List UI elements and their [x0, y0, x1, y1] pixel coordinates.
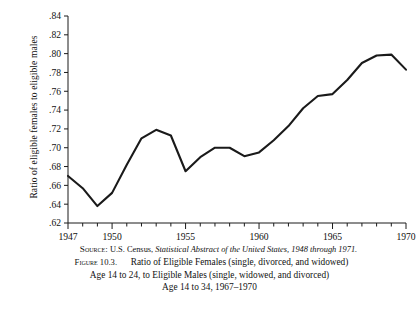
data-series-line	[68, 55, 406, 206]
figure-container: Ratio of eligible females to eligible ma…	[0, 0, 419, 313]
caption-text-2: Age 14 to 24, to Eligible Males (single,…	[90, 270, 329, 280]
x-tick-label: 1947	[58, 231, 77, 242]
source-note: Source: U.S. Census, Statistical Abstrac…	[0, 243, 419, 256]
source-publication: Statistical Abstract of the United State…	[155, 245, 357, 254]
figure-caption-block: Source: U.S. Census, Statistical Abstrac…	[0, 243, 419, 294]
source-label: Source:	[80, 244, 108, 254]
y-tick-label: .80	[49, 48, 61, 59]
y-tick-label: .70	[49, 142, 61, 153]
y-tick-label: .62	[49, 217, 61, 228]
x-tick-label: 1955	[176, 231, 195, 242]
figure-number: Figure 10.3.	[75, 257, 117, 267]
line-chart-svg: .62.64.66.68.70.72.74.76.78.80.82.84 194…	[0, 0, 419, 245]
y-tick-label: .78	[49, 67, 61, 78]
y-tick-label: .68	[49, 161, 61, 172]
x-tick-label: 1950	[102, 231, 121, 242]
y-tick-label: .66	[49, 180, 61, 191]
caption-line-1: Figure 10.3. Ratio of Eligible Females (…	[0, 256, 419, 269]
caption-line-2: Age 14 to 24, to Eligible Males (single,…	[0, 269, 419, 282]
y-tick-label: .64	[49, 199, 61, 210]
caption-text-3: Age 14 to 34, 1967–1970	[162, 282, 257, 292]
y-tick-label: .72	[49, 123, 61, 134]
y-tick-label: .84	[49, 10, 61, 21]
chart-plot-area: Ratio of eligible females to eligible ma…	[0, 0, 419, 245]
x-tick-label: 1970	[396, 231, 415, 242]
y-tick-label: .74	[49, 104, 61, 115]
x-axis-tick-group: 194719501955196019651970	[58, 223, 415, 242]
x-tick-label: 1960	[249, 231, 268, 242]
caption-line-3: Age 14 to 34, 1967–1970	[0, 281, 419, 294]
y-axis-tick-group: .62.64.66.68.70.72.74.76.78.80.82.84	[49, 10, 68, 228]
y-tick-label: .76	[49, 86, 61, 97]
x-tick-label: 1965	[323, 231, 342, 242]
caption-text-1: Ratio of Eligible Females (single, divor…	[131, 257, 349, 267]
source-agency: U.S. Census,	[110, 245, 153, 254]
y-tick-label: .82	[49, 29, 61, 40]
